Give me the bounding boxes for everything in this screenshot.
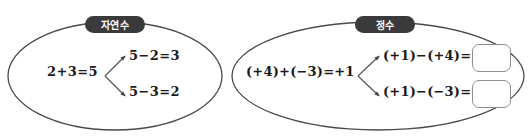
answer-box-integers-2[interactable] bbox=[472, 80, 511, 108]
branch-equation-integers-2: (+1)−(−3)= bbox=[383, 84, 471, 99]
main-equation-integers: (+4)+(−3)=+1 bbox=[246, 64, 355, 79]
branch-equation-natural-numbers-2: 5−3=2 bbox=[129, 84, 180, 99]
main-equation-natural-numbers: 2+3=5 bbox=[47, 64, 98, 79]
diagram-canvas: 자연수 정수 2+3=5 5−2=3 5−3=2 (+4)+(−3)=+1 (+… bbox=[0, 0, 532, 137]
branch-equation-integers-1: (+1)−(+4)= bbox=[383, 48, 471, 63]
ellipse-natural-numbers bbox=[8, 22, 222, 130]
answer-box-integers-1[interactable] bbox=[472, 44, 511, 72]
branch-connector-natural-numbers bbox=[105, 56, 126, 97]
branch-connector-integers bbox=[358, 56, 380, 97]
group-label-natural-numbers: 자연수 bbox=[85, 16, 145, 33]
group-label-integers: 정수 bbox=[355, 16, 415, 33]
branch-equation-natural-numbers-1: 5−2=3 bbox=[129, 48, 180, 63]
